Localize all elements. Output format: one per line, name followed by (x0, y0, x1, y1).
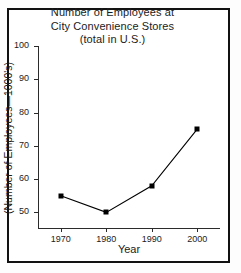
series-line (38, 46, 220, 229)
y-axis-tick-label: 100 (14, 40, 29, 51)
chart-figure: Number of Employees at City Convenience … (0, 0, 241, 273)
y-axis-tick-label: 70 (19, 140, 29, 151)
y-axis-label-text: (Number of Employees—1000's) (2, 62, 14, 214)
data-point (58, 193, 63, 198)
chart-title-line-1: Number of Employees at (20, 6, 205, 20)
plot-area: 1009080706050 1970198019902000 (38, 46, 220, 229)
y-axis-label: (Number of Employees—1000's) (0, 46, 16, 229)
y-axis-tick-label: 80 (19, 107, 29, 118)
data-point (149, 183, 154, 188)
y-axis-tick-label: 90 (19, 73, 29, 84)
y-axis-tick-label: 50 (19, 206, 29, 217)
x-axis-label: Year (38, 243, 220, 255)
chart-title-line-2: City Convenience Stores (20, 20, 205, 34)
y-axis-tick-label: 60 (19, 173, 29, 184)
chart-title: Number of Employees at City Convenience … (20, 6, 205, 47)
data-point (195, 127, 200, 132)
data-point (104, 210, 109, 215)
chart-title-line-3: (total in U.S.) (20, 33, 205, 47)
